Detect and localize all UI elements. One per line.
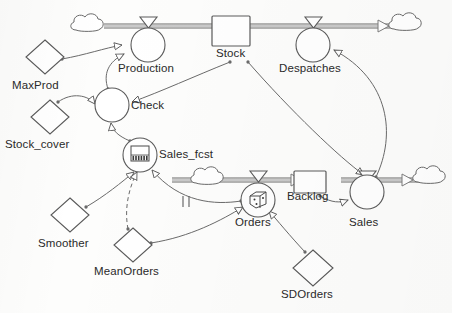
link-stock-sales <box>248 62 364 175</box>
constant-diamond-meanorders[interactable] <box>114 228 152 262</box>
link-maxprod-production <box>62 45 122 59</box>
constant-diamond-sdorders[interactable] <box>293 250 333 286</box>
constant-diamond-stock-cover[interactable] <box>31 100 69 134</box>
label-backlog: Backlog <box>287 190 329 202</box>
cloud-orders-source <box>191 167 223 185</box>
link-sdorders-orders <box>269 211 305 252</box>
cloud-sales-sink <box>413 166 445 184</box>
aux-circle-check[interactable] <box>95 88 129 122</box>
link-meanorders-orders <box>151 207 243 243</box>
label-smoother: Smoother <box>38 237 89 249</box>
histogram-icon <box>131 146 149 161</box>
label-sales: Sales <box>349 216 378 228</box>
label-despatches: Despatches <box>279 62 341 74</box>
flow-circle-despatches[interactable] <box>296 28 330 62</box>
cloud-production-source <box>71 14 103 32</box>
link-smoother-sales_fcst <box>86 172 134 207</box>
link-meanorders-sales_fcst <box>127 172 137 229</box>
label-sales-fcst: Sales_fcst <box>159 148 213 160</box>
label-production: Production <box>118 62 174 74</box>
pipe-stock-to-despatches <box>250 20 396 32</box>
constant-diamond-maxprod[interactable] <box>26 40 64 74</box>
flow-circle-sales[interactable] <box>350 175 384 209</box>
link-stock_cover-check <box>58 96 95 104</box>
label-stock-cover: Stock_cover <box>5 138 69 150</box>
label-stock: Stock <box>216 47 245 59</box>
label-check: Check <box>131 99 164 111</box>
stock-box-stock[interactable] <box>212 16 250 46</box>
diagram-canvas: MaxProd Stock_cover Smoother MeanOrders … <box>0 0 452 313</box>
label-orders: Orders <box>235 216 271 228</box>
delay-marker-icon <box>183 196 189 207</box>
label-meanorders: MeanOrders <box>94 265 159 277</box>
link-sales_fcst-check <box>111 123 130 141</box>
link-sales-despatches <box>334 50 386 177</box>
cloud-despatches-sink <box>389 13 421 31</box>
flow-circle-production[interactable] <box>131 28 165 62</box>
label-sdorders: SDOrders <box>281 288 333 300</box>
constant-diamond-smoother[interactable] <box>51 198 89 232</box>
label-maxprod: MaxProd <box>12 79 59 91</box>
